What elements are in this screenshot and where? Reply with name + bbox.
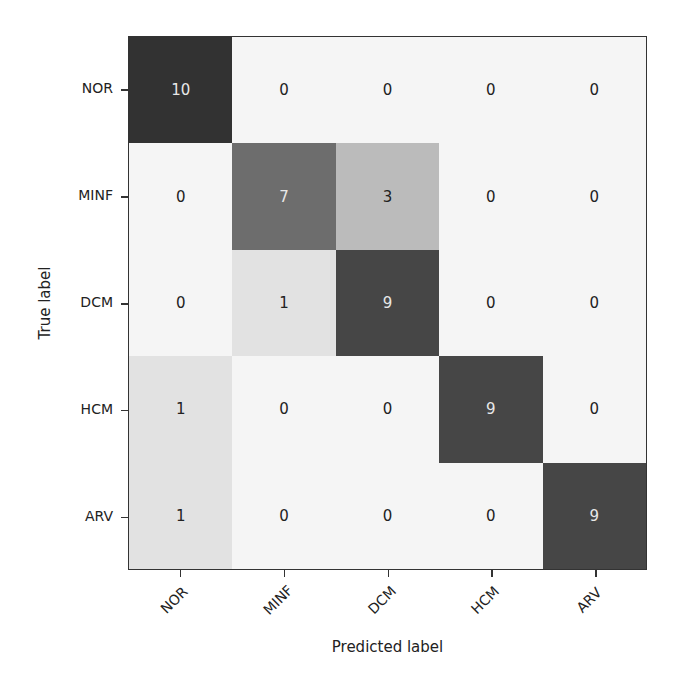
- y-tick-mark: [121, 303, 128, 305]
- matrix-cell: 0: [543, 356, 646, 462]
- y-tick-mark: [121, 410, 128, 412]
- y-tick-label: DCM: [0, 294, 113, 310]
- y-tick-mark: [121, 196, 128, 198]
- x-tick-label: DCM: [364, 583, 398, 617]
- matrix-cell: 0: [232, 356, 335, 462]
- x-tick-mark: [284, 570, 286, 577]
- matrix-cell: 0: [439, 37, 542, 143]
- y-tick-label: ARV: [0, 508, 113, 524]
- y-tick-mark: [121, 89, 128, 91]
- y-axis-label: True label: [36, 267, 54, 340]
- y-tick-label: HCM: [0, 401, 113, 417]
- matrix-cell: 7: [232, 143, 335, 249]
- matrix-cell: 9: [336, 250, 439, 356]
- matrix-cell: 0: [232, 463, 335, 569]
- x-tick-mark: [388, 570, 390, 577]
- matrix-cell: 0: [336, 37, 439, 143]
- matrix-cell: 1: [129, 463, 232, 569]
- x-tick-mark: [491, 570, 493, 577]
- matrix-cell: 0: [336, 356, 439, 462]
- matrix-cell: 1: [232, 250, 335, 356]
- y-tick-label: MINF: [0, 187, 113, 203]
- x-tick-mark: [180, 570, 182, 577]
- matrix-cell: 0: [439, 143, 542, 249]
- y-tick-mark: [121, 517, 128, 519]
- x-axis-label: Predicted label: [128, 638, 647, 656]
- matrix-cell: 0: [543, 143, 646, 249]
- y-tick-label: NOR: [0, 80, 113, 96]
- matrix-cell: 0: [232, 37, 335, 143]
- x-tick-label: NOR: [157, 583, 190, 616]
- matrix-cell: 0: [543, 37, 646, 143]
- matrix-cell: 0: [129, 143, 232, 249]
- matrix-cell: 10: [129, 37, 232, 143]
- x-tick-label: HCM: [468, 583, 502, 617]
- x-tick-label: MINF: [260, 582, 296, 618]
- matrix-cell: 1: [129, 356, 232, 462]
- matrix-cell: 9: [439, 356, 542, 462]
- matrix-cell: 0: [439, 463, 542, 569]
- matrix-cell: 9: [543, 463, 646, 569]
- confusion-matrix-plot: 10000007300019001009010009: [128, 36, 647, 570]
- x-tick-mark: [595, 570, 597, 577]
- matrix-cell: 3: [336, 143, 439, 249]
- matrix-cell: 0: [439, 250, 542, 356]
- matrix-cell: 0: [129, 250, 232, 356]
- matrix-cell: 0: [336, 463, 439, 569]
- matrix-cell: 0: [543, 250, 646, 356]
- x-tick-label: ARV: [573, 584, 604, 615]
